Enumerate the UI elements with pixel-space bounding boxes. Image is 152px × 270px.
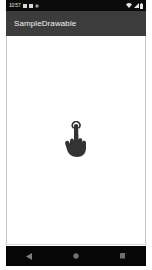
battery-icon [140, 3, 143, 9]
app-bar: SampleDrawable [6, 11, 146, 36]
status-bar-right [126, 3, 143, 9]
recents-button[interactable] [108, 246, 138, 266]
wifi-icon [126, 3, 132, 8]
status-bar: 10:57 [6, 0, 146, 11]
notification-dot-icon [35, 4, 39, 8]
back-triangle-icon [26, 253, 32, 260]
status-bar-clock: 10:57 [9, 3, 21, 8]
recents-square-icon [120, 253, 126, 259]
signal-icon [134, 3, 139, 8]
home-button[interactable] [61, 246, 91, 266]
content-area [6, 36, 146, 245]
status-bar-left: 10:57 [9, 3, 39, 8]
home-circle-icon [73, 253, 79, 259]
drawable-container [7, 36, 145, 244]
notification-square-icon [23, 4, 27, 8]
navigation-bar [6, 246, 146, 266]
notification-square-icon [29, 4, 33, 8]
pointing-hand-drawable [62, 121, 90, 158]
page-title: SampleDrawable [14, 19, 76, 29]
device-frame: 10:57 SampleDrawable [6, 0, 146, 267]
back-button[interactable] [14, 246, 44, 266]
